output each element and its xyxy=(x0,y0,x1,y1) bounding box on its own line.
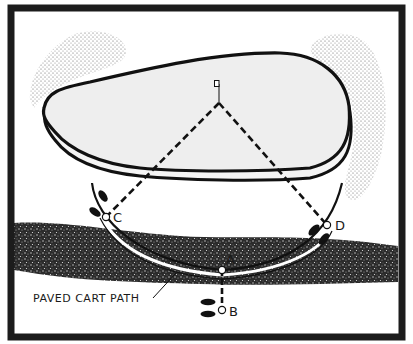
point-a-label: A xyxy=(226,252,235,267)
golf-green-diagram: C D A B PAVED CART PATH xyxy=(0,0,413,344)
point-b-marker xyxy=(218,306,225,313)
point-c-label: C xyxy=(113,210,122,225)
point-c-marker xyxy=(102,213,109,220)
diagram-stage: C D A B PAVED CART PATH xyxy=(0,0,413,344)
point-d-label: D xyxy=(335,218,345,233)
cart-path-caption: PAVED CART PATH xyxy=(33,292,140,305)
point-a-marker xyxy=(218,266,225,273)
point-b-label: B xyxy=(229,304,238,319)
point-d-marker xyxy=(323,221,330,228)
